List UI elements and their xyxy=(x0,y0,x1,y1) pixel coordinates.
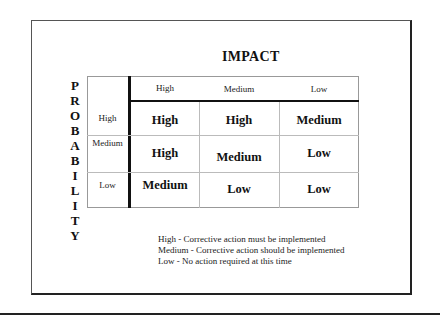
column-header-high: High xyxy=(131,83,199,93)
legend-high: High - Corrective action must be impleme… xyxy=(158,234,344,245)
probability-axis-title: P R O B A B I L I T Y xyxy=(68,78,82,243)
row-header-low: Low xyxy=(87,180,128,190)
legend-medium: Medium - Corrective action should be imp… xyxy=(158,245,344,256)
row-header-high: High xyxy=(87,113,128,123)
cell-low-low: Low xyxy=(279,182,359,197)
cell-low-medium: Low xyxy=(199,182,279,197)
cell-medium-medium: Medium xyxy=(199,150,279,165)
cell-medium-high: High xyxy=(131,146,199,161)
bottom-divider xyxy=(0,313,440,315)
risk-matrix: High Medium Low High Medium Low High Hig… xyxy=(87,76,359,208)
impact-axis-title: IMPACT xyxy=(222,49,280,65)
cell-high-medium: High xyxy=(199,113,279,128)
column-header-medium: Medium xyxy=(199,84,279,94)
cell-high-low: Medium xyxy=(279,113,359,128)
cell-low-high: Medium xyxy=(131,178,199,193)
cell-high-high: High xyxy=(131,113,199,128)
cell-medium-low: Low xyxy=(279,146,359,161)
legend-low: Low - No action required at this time xyxy=(158,256,344,267)
column-header-low: Low xyxy=(279,84,359,94)
legend: High - Corrective action must be impleme… xyxy=(158,234,344,267)
column-header-divider xyxy=(130,100,359,102)
row-header-medium: Medium xyxy=(87,138,128,148)
